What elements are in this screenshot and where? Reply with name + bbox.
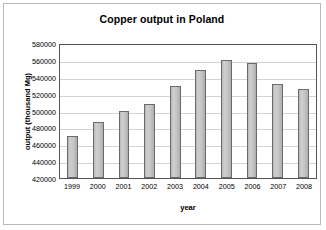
bar-series (60, 45, 316, 178)
bar-2007 (272, 84, 283, 179)
y-axis-tick-label: 520000 (32, 90, 56, 99)
x-axis-tick-label: 2005 (214, 182, 240, 191)
y-axis-tick-label: 560000 (32, 56, 56, 65)
bar-slot (265, 45, 291, 178)
y-axis-tick-label: 460000 (32, 141, 56, 150)
bar-slot (239, 45, 265, 178)
bar-2003 (170, 86, 181, 178)
y-axis-tick-label: 440000 (32, 158, 56, 167)
y-axis-tick-labels: 5800005600005400005200005000004800004600… (4, 44, 59, 179)
bar-1999 (67, 136, 78, 178)
bar-slot (111, 45, 137, 178)
x-axis-tick-label: 2008 (291, 182, 317, 191)
bar-2006 (247, 63, 258, 178)
bar-slot (60, 45, 86, 178)
y-axis-tick-label: 580000 (32, 40, 56, 49)
bar-slot (162, 45, 188, 178)
bar-2005 (221, 60, 232, 178)
bar-slot (290, 45, 316, 178)
x-axis-tick-label: 2001 (111, 182, 137, 191)
bar-slot (214, 45, 240, 178)
x-axis-tick-label: 2002 (136, 182, 162, 191)
y-axis-tick-label: 420000 (32, 175, 56, 184)
bar-2002 (144, 104, 155, 178)
bar-slot (188, 45, 214, 178)
x-axis-tick-label: 2007 (265, 182, 291, 191)
x-axis-tick-label: 2000 (85, 182, 111, 191)
x-axis-title: year (59, 203, 317, 212)
x-axis-tick-label: 1999 (59, 182, 85, 191)
y-axis-tick-label: 480000 (32, 124, 56, 133)
bar-2008 (298, 89, 309, 178)
x-axis-tick-labels: 1999200020012002200320042005200620072008 (59, 182, 317, 191)
chart-title: Copper output in Poland (4, 13, 320, 25)
y-axis-tick-label: 540000 (32, 73, 56, 82)
plot-area (59, 44, 317, 179)
y-axis-tick-label: 500000 (32, 107, 56, 116)
bar-2001 (119, 111, 130, 178)
x-axis-tick-label: 2006 (240, 182, 266, 191)
bar-2000 (93, 122, 104, 178)
x-axis-tick-label: 2003 (162, 182, 188, 191)
bar-slot (86, 45, 112, 178)
chart-container: Copper output in Poland output (thousand… (3, 3, 321, 225)
bar-2004 (195, 70, 206, 178)
bar-slot (137, 45, 163, 178)
x-axis-tick-label: 2004 (188, 182, 214, 191)
